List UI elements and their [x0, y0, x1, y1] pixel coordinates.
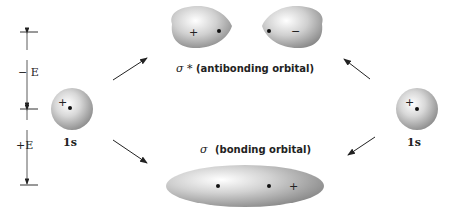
bonding-label: (bonding orbital)	[215, 144, 311, 155]
antibonding-left-lobe	[171, 6, 232, 48]
right-atom-label: 1s	[407, 136, 421, 149]
energy-scale: − E +E	[16, 32, 39, 185]
arrow-right-to-antibonding	[344, 59, 370, 79]
arrow-left-to-bonding	[113, 140, 147, 163]
right-1s-orbital: + 1s	[396, 88, 438, 149]
nucleus-dot	[267, 184, 271, 188]
nucleus-dot	[267, 29, 271, 33]
antibonding-orbital: + − σ * (antibonding orbital)	[171, 6, 322, 75]
nucleus-dot	[216, 184, 220, 188]
nucleus-dot	[68, 106, 72, 110]
antibonding-right-sign: −	[291, 25, 300, 38]
left-1s-orbital: + 1s	[51, 88, 93, 149]
antibonding-label: (antibonding orbital)	[196, 63, 314, 74]
right-atom-sign: +	[405, 96, 414, 109]
bonding-orbital: σ (bonding orbital) +	[166, 143, 324, 207]
sigma-symbol: σ	[200, 143, 208, 156]
left-atom-sign: +	[58, 96, 67, 109]
arrow-right-to-bonding	[348, 137, 375, 155]
bonding-sign: +	[289, 180, 298, 193]
arrow-left-to-antibonding	[113, 58, 147, 80]
antibonding-left-sign: +	[189, 26, 198, 39]
sigma-star-symbol: σ *	[176, 62, 193, 75]
minus-e-label: − E	[18, 66, 39, 79]
nucleus-dot	[415, 107, 419, 111]
left-atom-label: 1s	[63, 136, 77, 149]
nucleus-dot	[217, 29, 221, 33]
plus-e-label: +E	[16, 139, 33, 152]
orbital-diagram: − E +E + 1s + 1s + − σ * (antibonding or…	[0, 0, 450, 212]
